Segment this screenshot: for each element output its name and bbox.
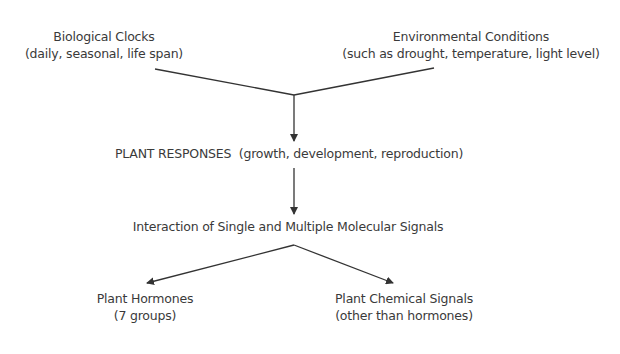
node-title: PLANT RESPONSES (growth, development, re…	[115, 145, 463, 162]
node-molecular-signals: Interaction of Single and Multiple Molec…	[133, 218, 443, 235]
node-title: Biological Clocks	[25, 28, 183, 45]
node-biological-clocks: Biological Clocks (daily, seasonal, life…	[25, 28, 183, 62]
node-subtitle: (7 groups)	[97, 307, 194, 324]
edge-clocks-merge	[155, 69, 294, 95]
node-subtitle: (such as drought, temperature, light lev…	[342, 45, 600, 62]
node-title: Plant Hormones	[97, 290, 194, 307]
node-plant-hormones: Plant Hormones (7 groups)	[97, 290, 194, 324]
arrow-to-plant-hormones	[147, 245, 294, 283]
node-title: Interaction of Single and Multiple Molec…	[133, 218, 443, 235]
node-chemical-signals: Plant Chemical Signals (other than hormo…	[335, 290, 473, 324]
node-title: Environmental Conditions	[342, 28, 600, 45]
node-title: Plant Chemical Signals	[335, 290, 473, 307]
arrow-to-chemical-signals	[294, 245, 393, 283]
node-environmental-conditions: Environmental Conditions (such as drough…	[342, 28, 600, 62]
node-subtitle: (daily, seasonal, life span)	[25, 45, 183, 62]
node-plant-responses: PLANT RESPONSES (growth, development, re…	[115, 145, 463, 162]
edge-env-merge	[294, 68, 434, 95]
node-subtitle: (other than hormones)	[335, 307, 473, 324]
